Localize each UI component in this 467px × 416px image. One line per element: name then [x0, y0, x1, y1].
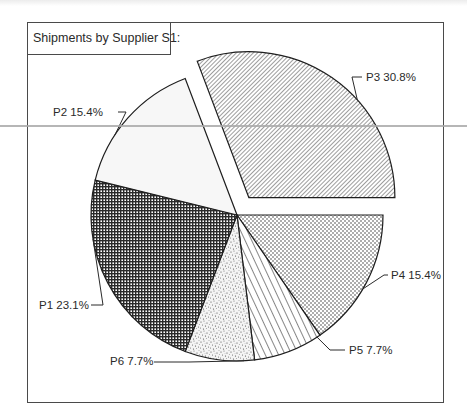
chart-title: Shipments by Supplier S1:	[27, 22, 171, 55]
slice-label-p4: P4 15.4%	[391, 268, 441, 282]
pie-chart	[0, 0, 467, 416]
slice-label-p3: P3 30.8%	[366, 70, 416, 84]
pie-slices	[91, 52, 395, 361]
slice-label-p2: P2 15.4%	[53, 105, 103, 119]
leader-line-p6	[154, 361, 244, 362]
leader-line-p5	[317, 337, 345, 350]
slice-label-p1: P1 23.1%	[39, 298, 89, 312]
slice-label-p5: P5 7.7%	[349, 343, 392, 357]
scan-artifact-line	[0, 125, 467, 127]
slice-label-p6: P6 7.7%	[110, 354, 153, 368]
